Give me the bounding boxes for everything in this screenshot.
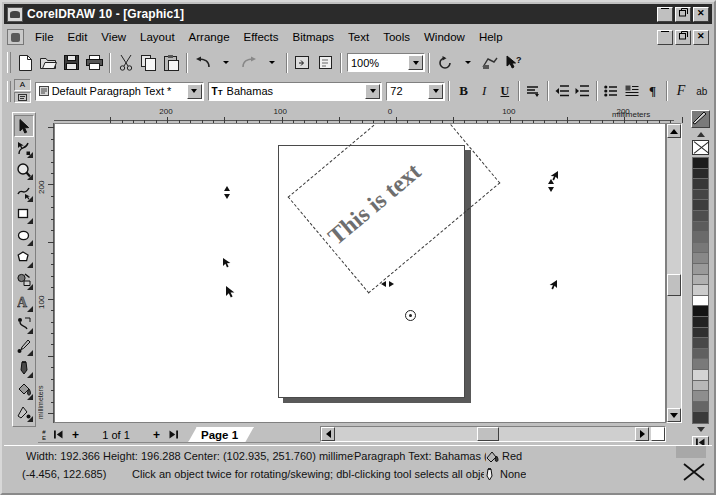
underline-button[interactable]: U <box>495 81 516 102</box>
restore-button[interactable] <box>675 7 691 22</box>
add-page-after-button[interactable]: + <box>149 428 164 442</box>
open-document-button[interactable] <box>37 52 60 74</box>
page-tab-page-1[interactable]: Page 1 <box>188 427 254 443</box>
bulleted-list-button[interactable] <box>601 81 622 102</box>
menu-effects[interactable]: Effects <box>237 29 286 45</box>
copy-button[interactable] <box>137 52 160 74</box>
font-family-combo[interactable]: TT Bahamas <box>208 82 383 101</box>
print-button[interactable] <box>83 52 106 74</box>
menu-help[interactable]: Help <box>472 29 510 45</box>
eyedropper-tool[interactable] <box>14 335 34 357</box>
vertical-scroll-thumb[interactable] <box>667 274 681 296</box>
redo-button[interactable] <box>237 52 260 74</box>
menu-window[interactable]: Window <box>417 29 472 45</box>
vertical-ruler[interactable]: 300200100millimeters <box>38 123 54 423</box>
freehand-tool[interactable] <box>14 181 34 203</box>
first-page-button[interactable] <box>51 428 66 442</box>
show-nonprinting-characters-button[interactable]: ¶ <box>642 81 663 102</box>
menu-bitmaps[interactable]: Bitmaps <box>285 29 341 45</box>
rotation-handle-bottom-right[interactable] <box>545 279 558 292</box>
undo-button[interactable] <box>191 52 214 74</box>
skew-handle-bottom[interactable] <box>381 280 394 287</box>
shape-tool[interactable] <box>14 137 34 159</box>
menu-layout[interactable]: Layout <box>133 29 182 45</box>
ellipse-tool[interactable] <box>14 225 34 247</box>
horizontal-scroll-thumb[interactable] <box>477 427 499 441</box>
menu-arrange[interactable]: Arrange <box>182 29 237 45</box>
outline-pen-icon[interactable] <box>484 468 497 481</box>
custom-color-swatch[interactable] <box>691 110 710 128</box>
menu-text[interactable]: Text <box>341 29 376 45</box>
property-bar-grip[interactable] <box>7 81 11 102</box>
scroll-left-button[interactable] <box>321 427 335 441</box>
rotation-handle-top-left[interactable] <box>222 257 235 270</box>
artistic-text-button[interactable]: A <box>14 79 31 91</box>
document-minimize-button[interactable] <box>657 30 673 45</box>
paragraph-style-combo[interactable]: Default Paragraph Text * <box>35 82 204 101</box>
zoom-level-dropdown-button[interactable] <box>408 55 423 70</box>
application-launcher-button[interactable] <box>479 52 502 74</box>
paste-button[interactable] <box>160 52 183 74</box>
font-family-dropdown-button[interactable] <box>365 84 380 99</box>
palette-swatch[interactable] <box>692 411 709 424</box>
scroll-down-button[interactable] <box>667 408 681 422</box>
palette-scroll-up-button[interactable] <box>692 129 709 139</box>
basic-shapes-tool[interactable] <box>14 269 34 291</box>
cut-button[interactable] <box>114 52 137 74</box>
undo-dropdown-button[interactable] <box>214 52 237 74</box>
close-button[interactable]: ✕ <box>693 7 709 22</box>
horizontal-ruler[interactable]: 2001000100200300400millimeters <box>38 107 688 123</box>
toolbar-grip[interactable] <box>7 52 11 73</box>
import-button[interactable] <box>291 52 314 74</box>
redo-dropdown-button[interactable] <box>260 52 283 74</box>
font-size-combo[interactable]: 72 <box>386 82 445 101</box>
paragraph-text-button[interactable] <box>14 92 31 104</box>
document-icon[interactable] <box>7 29 24 45</box>
status-bar-close-button[interactable] <box>682 461 706 483</box>
skew-handle-right[interactable] <box>547 179 554 192</box>
menu-view[interactable]: View <box>94 29 133 45</box>
document-restore-button[interactable] <box>675 30 691 45</box>
rectangle-tool[interactable] <box>14 203 34 225</box>
polygon-tool[interactable] <box>14 247 34 269</box>
no-color-swatch[interactable] <box>692 140 709 155</box>
text-align-button[interactable] <box>523 81 544 102</box>
refresh-dropdown-button[interactable] <box>456 52 479 74</box>
italic-button[interactable]: I <box>474 81 495 102</box>
drawing-canvas[interactable]: This is text <box>54 123 666 423</box>
add-page-before-button[interactable]: + <box>68 428 83 442</box>
format-text-button[interactable]: F <box>671 81 692 102</box>
horizontal-scrollbar[interactable] <box>320 426 666 442</box>
font-size-dropdown-button[interactable] <box>428 84 443 99</box>
export-button[interactable] <box>314 52 337 74</box>
whats-this-help-button[interactable]: ? <box>502 52 525 74</box>
last-page-button[interactable] <box>166 428 181 442</box>
vertical-scrollbar[interactable] <box>666 123 682 423</box>
minimize-button[interactable] <box>657 7 673 22</box>
menu-file[interactable]: File <box>28 29 61 45</box>
fill-tool[interactable] <box>14 379 34 401</box>
increase-indent-button[interactable] <box>572 81 593 102</box>
interactive-fill-tool[interactable] <box>14 401 34 423</box>
zoom-level-combo[interactable]: 100% <box>347 53 425 72</box>
document-close-button[interactable]: ✕ <box>693 30 709 45</box>
skew-handle-left[interactable] <box>223 186 230 199</box>
scroll-corner-button[interactable] <box>651 427 665 441</box>
drop-cap-button[interactable] <box>622 81 643 102</box>
save-document-button[interactable] <box>60 52 83 74</box>
scroll-up-button[interactable] <box>667 124 681 138</box>
refresh-window-button[interactable] <box>433 52 456 74</box>
decrease-indent-button[interactable] <box>552 81 573 102</box>
new-document-button[interactable] <box>14 52 37 74</box>
interactive-blend-tool[interactable] <box>14 313 34 335</box>
palette-scroll-down-button[interactable] <box>692 424 709 434</box>
menu-edit[interactable]: Edit <box>61 29 95 45</box>
zoom-tool[interactable] <box>14 159 34 181</box>
rotation-center-marker[interactable] <box>405 310 416 321</box>
paragraph-style-dropdown-button[interactable] <box>187 84 202 99</box>
bold-button[interactable]: B <box>453 81 474 102</box>
pick-tool[interactable] <box>14 115 34 137</box>
menu-tools[interactable]: Tools <box>376 29 417 45</box>
text-tool[interactable]: A <box>14 291 34 313</box>
rotation-handle-bottom-left[interactable] <box>225 285 238 298</box>
